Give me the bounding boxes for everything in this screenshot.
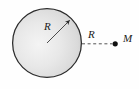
point-mass-label: M: [123, 33, 132, 44]
figure-canvas: [0, 0, 139, 89]
point-mass-dot: [113, 41, 118, 46]
physics-figure: R R M: [0, 0, 139, 89]
sphere-radius-label: R: [44, 21, 51, 32]
separation-distance-label: R: [88, 29, 95, 40]
